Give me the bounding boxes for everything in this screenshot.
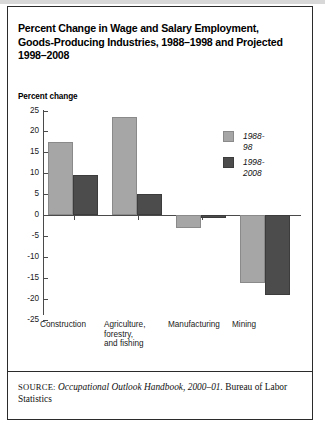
x-category-label: Agriculture, forestry, and fishing [104,320,145,349]
source-prefix: SOURCE: [18,382,56,392]
source-note: SOURCE: Occupational Outlook Handbook, 2… [18,381,296,406]
legend-swatch-icon-1998-2008 [223,157,234,168]
x-axis-category-labels: ConstructionAgriculture, forestry, and f… [18,320,303,360]
bar-0 [112,117,137,215]
y-tick-label: 15 [15,148,39,156]
y-tick-label: 10 [15,169,39,177]
source-divider [8,371,312,372]
y-tick-label: 0 [15,211,39,219]
y-tick-label: -10 [15,253,39,261]
source-publication: Occupational Outlook Handbook, 2000–01. [58,382,223,392]
y-tick-label: -15 [15,274,39,282]
bar-0 [176,215,201,228]
bar-1 [137,194,162,215]
x-category-label: Construction [40,320,86,330]
bar-0 [240,215,265,283]
legend-swatch-icon-1988-98 [223,131,234,142]
x-category-label: Manufacturing [168,320,220,330]
figure-title: Percent Change in Wage and Salary Employ… [18,22,290,63]
legend-label-1988-98: 1988-98 [243,131,264,153]
scan-artifact [0,0,325,4]
y-tick-label: -5 [15,232,39,240]
y-tick-label: 20 [15,127,39,135]
y-tick-label: 25 [15,107,39,115]
bar-1 [201,215,226,218]
x-category-label: Mining [232,320,256,330]
bar-1 [265,215,290,295]
bar-1 [73,175,98,215]
bar-0 [48,142,73,215]
legend-label-1998-2008: 1998-2008 [243,157,264,179]
figure-page: Percent Change in Wage and Salary Employ… [0,0,325,429]
y-tick-label: -20 [15,295,39,303]
y-axis-title: Percent change [18,92,78,101]
chart-plot-area: 2520151050-5-10-15-20-25 1988-98 1998-20… [18,106,303,318]
y-tick-label: 5 [15,190,39,198]
